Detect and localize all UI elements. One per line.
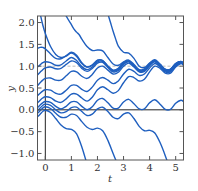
plot-background (38, 16, 184, 160)
y-axis-label: y (5, 86, 16, 93)
y-tick-label: 1.5 (19, 39, 35, 50)
x-tick-label: 1 (68, 162, 74, 173)
x-tick-label: 0 (42, 162, 48, 173)
y-tick-label: 2.0 (19, 17, 35, 28)
y-tick-label: −0.5 (10, 126, 34, 137)
y-tick-label: −1.0 (10, 148, 34, 159)
x-tick-label: 3 (120, 162, 126, 173)
x-tick-label: 2 (94, 162, 100, 173)
y-tick-label: 1.0 (19, 61, 35, 72)
y-tick-label: 0.5 (19, 83, 35, 94)
x-tick-label: 5 (172, 162, 178, 173)
x-axis-label: t (108, 173, 113, 184)
solution-curves-chart: 012345 −1.0−0.50.00.51.01.52.0 t y (0, 0, 198, 191)
x-tick-label: 4 (146, 162, 152, 173)
y-tick-label: 0.0 (19, 104, 35, 115)
